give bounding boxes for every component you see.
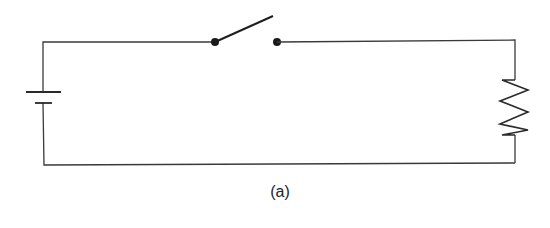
left-wire: [43, 42, 515, 165]
switch-icon: [211, 16, 281, 46]
right-wire: [277, 40, 515, 163]
figure-caption: (a): [266, 183, 294, 201]
resistor-icon: [500, 80, 528, 135]
battery-icon: [26, 92, 61, 103]
